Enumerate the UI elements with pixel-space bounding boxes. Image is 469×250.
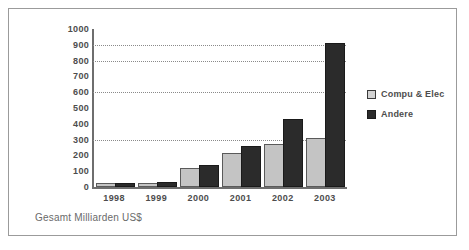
x-tick-label-2002: 2002 bbox=[262, 193, 304, 203]
bar-group-2001 bbox=[220, 29, 262, 187]
x-tick-label-2001: 2001 bbox=[220, 193, 262, 203]
bar-1999-andere[interactable] bbox=[157, 182, 177, 187]
bar-group-2002 bbox=[262, 29, 304, 187]
y-tick-label-400: 400 bbox=[43, 120, 89, 129]
x-tick-label-1999: 1999 bbox=[135, 193, 177, 203]
chart-footnote: Gesamt Milliarden US$ bbox=[35, 212, 142, 223]
bar-2001-compu-elec[interactable] bbox=[222, 153, 242, 187]
y-tick-label-800: 800 bbox=[43, 57, 89, 66]
y-tick-label-200: 200 bbox=[43, 151, 89, 160]
x-tick-label-1998: 1998 bbox=[93, 193, 135, 203]
y-tick-label-900: 900 bbox=[43, 41, 89, 50]
y-tick-label-0: 0 bbox=[43, 183, 89, 192]
bar-group-1999 bbox=[135, 29, 177, 187]
bar-1998-compu-elec[interactable] bbox=[96, 183, 116, 187]
x-tick-label-2000: 2000 bbox=[177, 193, 219, 203]
bar-1999-compu-elec[interactable] bbox=[138, 183, 158, 187]
y-tick-label-500: 500 bbox=[43, 104, 89, 113]
y-axis-tick-labels: 10009008007006005004003002001000 bbox=[39, 29, 89, 187]
legend-swatch-icon-compu-elec bbox=[367, 90, 376, 99]
bar-group-2000 bbox=[177, 29, 219, 187]
legend-swatch-icon-andere bbox=[367, 110, 376, 119]
legend-label-compu-elec: Compu & Elec bbox=[381, 89, 444, 99]
chart-legend: Compu & Elec Andere bbox=[367, 89, 462, 129]
legend-item-compu-elec[interactable]: Compu & Elec bbox=[367, 89, 462, 99]
y-tick-label-300: 300 bbox=[43, 136, 89, 145]
bar-2000-andere[interactable] bbox=[199, 165, 219, 187]
plot-area bbox=[93, 29, 346, 187]
y-tick-label-600: 600 bbox=[43, 88, 89, 97]
x-tick-label-2003: 2003 bbox=[304, 193, 346, 203]
bar-2003-andere[interactable] bbox=[325, 43, 345, 187]
y-tick-label-700: 700 bbox=[43, 72, 89, 81]
bar-1998-andere[interactable] bbox=[115, 183, 135, 187]
bar-2002-andere[interactable] bbox=[283, 119, 303, 187]
y-tick-label-100: 100 bbox=[43, 167, 89, 176]
bar-group-2003 bbox=[304, 29, 346, 187]
bar-2002-compu-elec[interactable] bbox=[264, 144, 284, 187]
bar-group-1998 bbox=[93, 29, 135, 187]
bar-2003-compu-elec[interactable] bbox=[306, 138, 326, 187]
bar-2001-andere[interactable] bbox=[241, 146, 261, 188]
x-axis-line bbox=[92, 187, 347, 189]
legend-label-andere: Andere bbox=[381, 109, 413, 119]
chart-frame: 10009008007006005004003002001000 Compu &… bbox=[8, 8, 457, 236]
y-tick-label-1000: 1000 bbox=[43, 25, 89, 34]
bar-2000-compu-elec[interactable] bbox=[180, 168, 200, 187]
legend-item-andere[interactable]: Andere bbox=[367, 109, 462, 119]
